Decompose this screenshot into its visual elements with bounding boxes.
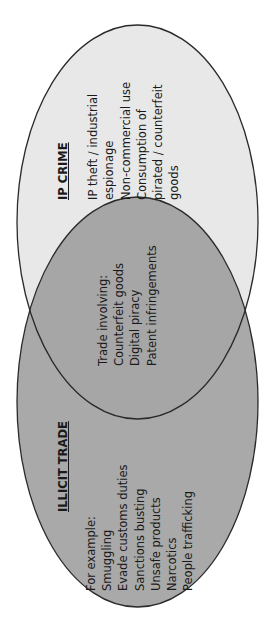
illicit-trade-item: Narcotics: [164, 464, 180, 591]
overlap-item: Trade involving:: [95, 245, 111, 366]
illicit-trade-label-block: For example: Smuggling Evade customs dut…: [83, 464, 196, 591]
illicit-trade-title-block: ILLICIT TRADE: [55, 421, 71, 512]
illicit-trade-item: Unsafe products: [148, 464, 164, 591]
overlap-item: Counterfeit goods: [111, 245, 127, 366]
venn-diagram: IP CRIME IP theft / industrial espionage…: [0, 0, 269, 633]
ip-crime-item: Consumption of: [134, 82, 150, 200]
illicit-trade-item: Sanctions busting: [132, 464, 148, 591]
ip-crime-item: goods: [166, 82, 182, 200]
illicit-trade-item: For example:: [83, 464, 99, 591]
ip-crime-item: pirated / counterfeit: [150, 82, 166, 200]
ip-crime-item: Non-commercial use: [118, 82, 134, 200]
ip-crime-title: IP CRIME: [55, 82, 71, 200]
illicit-trade-item: People trafficking: [180, 464, 196, 591]
ip-crime-label-block: IP CRIME IP theft / industrial espionage…: [55, 82, 182, 200]
illicit-trade-item: Evade customs duties: [115, 464, 131, 591]
ip-crime-item: espionage: [101, 82, 117, 200]
illicit-trade-item: Smuggling: [99, 464, 115, 591]
overlap-item: Digital piracy: [127, 245, 143, 366]
illicit-trade-title: ILLICIT TRADE: [55, 421, 71, 512]
overlap-label-block: Trade involving: Counterfeit goods Digit…: [95, 245, 160, 366]
overlap-item: Patent infringements: [144, 245, 160, 366]
ip-crime-item: IP theft / industrial: [85, 82, 101, 200]
